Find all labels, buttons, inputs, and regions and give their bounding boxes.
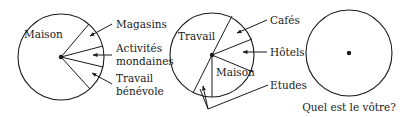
pie-1-label-magasins: Magasins [116,18,167,30]
pie-1-label-benevole: bénévole [116,85,164,97]
pie-2-label-cafes: Cafés [270,14,300,26]
arrow-icon [92,73,112,84]
pie-2-label-maison: Maison [216,66,255,78]
pie-2-divider [212,39,252,55]
pie-2-label-hotels: Hôtels [270,46,305,58]
pie-chart-1: Maison Magasins Activités mondaines Trav… [18,14,174,100]
pie-chart-3: Quel est le vôtre? [302,10,396,113]
pie-1-center-dot [59,55,63,59]
pie-1-label-maison: Maison [24,28,63,40]
pie-1-label-activites: Activités [115,42,162,54]
pie-2-divider [193,55,212,93]
pie-1-divider [61,57,90,89]
pie-1-label-travail: Travail [116,72,154,84]
pie-diagrams-figure: Maison Magasins Activités mondaines Trav… [0,0,407,117]
pie-2-label-etudes: Etudes [270,79,307,91]
pie-chart-2: Travail Maison Cafés Hôtels Etudes [170,13,307,109]
pie-2-label-travail: Travail [178,30,216,42]
arrow-icon [90,24,112,36]
pie-1-divider [61,57,103,67]
arrow-icon [237,20,267,33]
pie-1-label-mondaines: mondaines [116,55,174,67]
pie-2-center-dot [210,53,214,57]
pie-1-divider [61,24,89,57]
pie-3-caption: Quel est le vôtre? [302,101,396,113]
pie-3-center-dot [347,51,351,55]
